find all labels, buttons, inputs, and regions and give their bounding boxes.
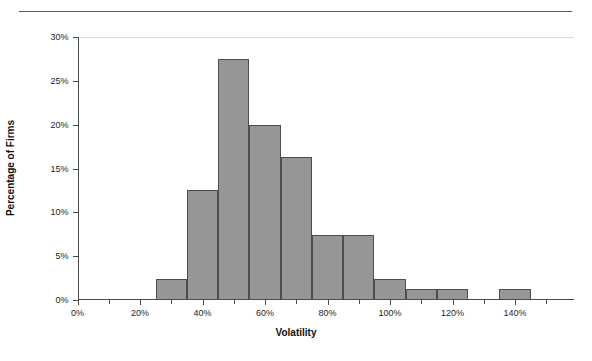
x-tick — [265, 300, 266, 305]
x-minor-tick — [234, 300, 235, 304]
x-tick-label: 60% — [256, 308, 274, 318]
bar-series — [78, 37, 574, 300]
x-axis-title: Volatility — [0, 327, 592, 338]
y-tick-label: 0% — [55, 295, 68, 305]
x-minor-tick — [359, 300, 360, 304]
x-tick — [515, 300, 516, 305]
histogram-bar — [406, 289, 437, 300]
header-rule — [19, 11, 572, 12]
y-tick-label: 15% — [50, 164, 68, 174]
y-tick-label: 25% — [50, 76, 68, 86]
histogram-bar — [218, 59, 249, 300]
histogram-bar — [281, 157, 312, 300]
x-minor-tick — [421, 300, 422, 304]
x-tick — [140, 300, 141, 305]
x-tick — [453, 300, 454, 305]
y-axis-title: Percentage of Firms — [5, 120, 16, 216]
x-minor-tick — [109, 300, 110, 304]
histogram-bar — [312, 235, 343, 300]
y-tick-label: 30% — [50, 32, 68, 42]
y-tick — [73, 81, 79, 82]
y-tick-label: 20% — [50, 120, 68, 130]
histogram-bar — [374, 279, 405, 300]
y-tick-label: 10% — [50, 207, 68, 217]
x-tick — [203, 300, 204, 305]
x-tick-label: 120% — [441, 308, 464, 318]
x-tick — [390, 300, 391, 305]
x-tick-label: 140% — [503, 308, 526, 318]
x-tick-label: 80% — [318, 308, 336, 318]
histogram-bar — [156, 279, 187, 300]
plot-area: 0%5%10%15%20%25%30% 0%20%40%60%80%100%12… — [78, 37, 574, 300]
x-minor-tick — [296, 300, 297, 304]
histogram-bar — [499, 289, 530, 300]
y-tick — [73, 37, 79, 38]
x-minor-tick — [171, 300, 172, 304]
x-minor-tick — [484, 300, 485, 304]
histogram-bar — [437, 289, 468, 300]
histogram-bar — [343, 235, 374, 300]
x-tick-label: 100% — [378, 308, 401, 318]
histogram-bar — [249, 125, 280, 300]
x-tick-label: 40% — [193, 308, 211, 318]
y-tick-label: 5% — [55, 251, 68, 261]
y-tick — [73, 256, 79, 257]
x-tick — [78, 300, 79, 305]
x-tick-label: 0% — [71, 308, 84, 318]
x-tick-label: 20% — [131, 308, 149, 318]
x-minor-tick — [546, 300, 547, 304]
y-tick — [73, 169, 79, 170]
y-tick — [73, 125, 79, 126]
y-tick — [73, 212, 79, 213]
histogram-figure: Percentage of Firms 0%5%10%15%20%25%30% … — [0, 0, 592, 361]
x-tick — [328, 300, 329, 305]
histogram-bar — [187, 190, 218, 300]
